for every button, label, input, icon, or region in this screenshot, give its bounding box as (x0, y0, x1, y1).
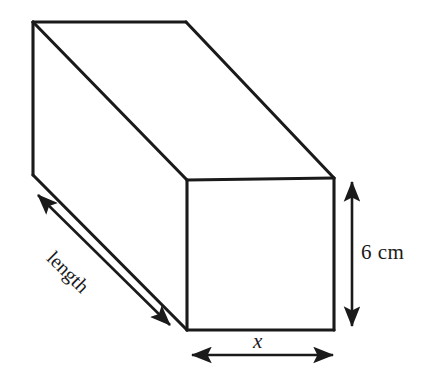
width-label: x (253, 329, 262, 354)
cuboid-edge-front-top (187, 178, 334, 180)
cuboid-diagram (0, 0, 428, 370)
cuboid-edge-top-receding-right (186, 22, 334, 178)
height-label: 6 cm (361, 240, 404, 265)
cuboid-edge-top-receding-left (33, 22, 187, 180)
figure-canvas: 6 cm x length (0, 0, 428, 370)
